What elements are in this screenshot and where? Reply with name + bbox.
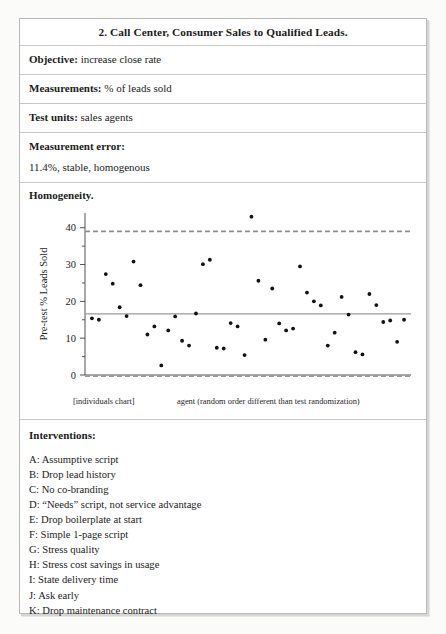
intervention-item: C: No co-branding	[29, 482, 417, 497]
data-point	[388, 319, 392, 323]
homogeneity-label: Homogeneity.	[29, 189, 417, 201]
field-measurement-error-value: 11.4%, stable, homogenous	[29, 160, 417, 175]
interventions-section: Interventions: A: Assumptive scriptB: Dr…	[20, 420, 426, 627]
data-point	[111, 282, 115, 286]
data-point	[187, 344, 191, 348]
data-point	[291, 327, 295, 331]
intervention-item: H: Stress cost savings in usage	[29, 557, 417, 572]
data-point	[146, 333, 150, 337]
intervention-item: A: Assumptive script	[29, 452, 417, 467]
data-point	[257, 279, 261, 283]
data-point	[402, 318, 406, 322]
y-axis-label: Pre-test % Leads Sold	[38, 247, 49, 341]
data-point	[270, 287, 274, 291]
intervention-item: F: Simple 1-page script	[29, 527, 417, 542]
intervention-item: D: “Needs” script, not service advantage	[29, 497, 417, 512]
data-point	[250, 215, 254, 219]
data-point	[263, 338, 267, 342]
field-test-units-value: sales agents	[81, 111, 133, 123]
data-point	[166, 329, 170, 333]
data-point	[97, 318, 101, 322]
field-measurements: Measurements: % of leads sold	[20, 75, 426, 104]
data-point	[180, 339, 184, 343]
data-point	[159, 364, 163, 368]
chart-caption-right: agent (random order different than test …	[177, 397, 360, 406]
y-tick-label: 40	[66, 223, 77, 234]
data-point	[374, 303, 378, 307]
intervention-item: I: State delivery time	[29, 572, 417, 587]
interventions-list: A: Assumptive scriptB: Drop lead history…	[29, 452, 417, 617]
data-point	[284, 329, 288, 333]
data-point	[201, 262, 205, 266]
data-point	[333, 331, 337, 335]
data-point	[152, 325, 156, 329]
data-point	[319, 304, 323, 308]
intervention-item: J: Ask early	[29, 588, 417, 603]
y-axis-tick-labels: 010203040	[66, 223, 77, 381]
homogeneity-section: Homogeneity. 010203040 Pre-test % Leads …	[20, 183, 426, 420]
y-tick-label: 20	[66, 296, 77, 307]
field-measurement-error: Measurement error: 11.4%, stable, homoge…	[20, 133, 426, 184]
chart-svg: 010203040 Pre-test % Leads Sold	[29, 203, 417, 399]
chart-data-points	[90, 215, 406, 368]
data-point	[125, 314, 129, 318]
data-point	[90, 317, 94, 321]
data-point	[381, 320, 385, 324]
data-point	[361, 353, 365, 357]
data-point	[132, 260, 136, 264]
y-tick-label: 10	[66, 333, 77, 344]
data-point	[347, 313, 351, 317]
chart-captions: [individuals chart] agent (random order …	[29, 397, 417, 413]
data-point	[354, 350, 358, 354]
data-point	[139, 283, 143, 287]
data-point	[236, 325, 240, 329]
y-tick-label: 0	[71, 370, 76, 381]
field-measurements-value: % of leads sold	[104, 82, 172, 94]
y-axis-ticks	[80, 228, 85, 375]
data-point	[326, 344, 330, 348]
field-test-units-label: Test units:	[29, 111, 78, 123]
data-point	[340, 295, 344, 299]
field-test-units: Test units: sales agents	[20, 104, 426, 133]
intervention-item: K: Drop maintenance contract	[29, 603, 417, 618]
data-point	[298, 265, 302, 269]
data-point	[215, 346, 219, 350]
y-tick-label: 30	[66, 259, 77, 270]
chart-caption-left: [individuals chart]	[73, 397, 135, 406]
data-point	[118, 306, 122, 310]
data-point	[367, 292, 371, 296]
data-point	[243, 353, 247, 357]
data-point	[229, 321, 233, 325]
data-point	[312, 300, 316, 304]
data-point	[277, 322, 281, 326]
data-point	[194, 312, 198, 316]
individuals-control-chart: 010203040 Pre-test % Leads Sold [individ…	[29, 203, 417, 415]
intervention-item: E: Drop boilerplate at start	[29, 512, 417, 527]
data-point	[305, 291, 309, 295]
intervention-item: G: Stress quality	[29, 542, 417, 557]
document-page: 2. Call Center, Consumer Sales to Qualif…	[19, 18, 427, 614]
intervention-item: B: Drop lead history	[29, 467, 417, 482]
data-point	[173, 315, 177, 319]
data-point	[104, 272, 108, 276]
data-point	[208, 258, 212, 262]
page-title: 2. Call Center, Consumer Sales to Qualif…	[20, 19, 426, 46]
field-objective-value: increase close rate	[81, 53, 162, 65]
field-objective-label: Objective:	[29, 53, 78, 65]
field-measurement-error-label: Measurement error:	[29, 139, 417, 154]
data-point	[222, 347, 226, 351]
interventions-heading: Interventions:	[29, 429, 417, 441]
field-measurements-label: Measurements:	[29, 82, 102, 94]
field-objective: Objective: increase close rate	[20, 46, 426, 75]
chart-axes	[85, 213, 411, 375]
data-point	[395, 340, 399, 344]
